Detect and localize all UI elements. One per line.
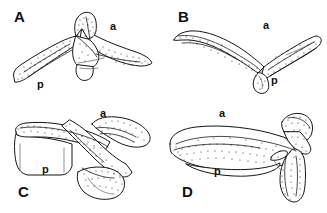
panel-d-posterior-label: p bbox=[214, 166, 221, 177]
panel-d: D a p bbox=[164, 104, 327, 210]
panel-c-ventral-block bbox=[77, 167, 124, 199]
panel-a: A a p bbox=[0, 0, 163, 106]
panel-c-drawing bbox=[15, 117, 151, 200]
panel-d-anterior-label: a bbox=[219, 108, 225, 119]
panel-a-posterior-arm bbox=[13, 36, 80, 82]
panel-c: C a p bbox=[0, 104, 163, 210]
panel-a-posterior-label: p bbox=[37, 79, 44, 90]
panel-b-right-arm bbox=[261, 36, 321, 79]
panel-a-anterior-label: a bbox=[110, 21, 116, 32]
panel-b: B a p bbox=[164, 0, 327, 106]
panel-a-ventral-knob bbox=[76, 65, 93, 80]
figure-canvas: A a p bbox=[0, 0, 327, 213]
panel-b-drawing bbox=[174, 31, 321, 93]
panel-b-anterior-label: a bbox=[263, 20, 269, 31]
panel-d-letter: D bbox=[182, 184, 193, 199]
panel-b-posterior-label: p bbox=[271, 75, 278, 86]
panel-c-anterior-label: a bbox=[100, 108, 106, 119]
panel-a-letter: A bbox=[14, 9, 25, 24]
panel-a-drawing bbox=[13, 12, 152, 82]
panel-c-posterior-label: p bbox=[42, 164, 49, 175]
panel-b-left-arm bbox=[174, 31, 264, 73]
panel-b-letter: B bbox=[178, 9, 189, 24]
panel-c-letter: C bbox=[18, 184, 29, 199]
